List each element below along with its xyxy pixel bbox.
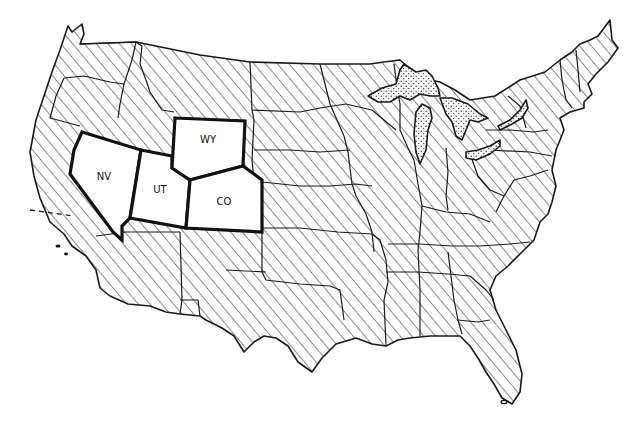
state-label-wy: WY	[200, 134, 217, 145]
state-label-ut: UT	[153, 184, 167, 195]
state-label-nv: NV	[97, 171, 111, 182]
state-label-co: CO	[217, 196, 232, 207]
us-map: NV UT WY CO	[0, 0, 639, 429]
